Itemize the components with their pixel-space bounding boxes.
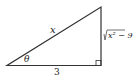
opposite-side-label: x² − 9 xyxy=(108,32,133,40)
angle-theta-label: θ xyxy=(24,55,29,64)
right-angle-marker xyxy=(96,61,101,66)
triangle-outline xyxy=(7,7,101,66)
hypotenuse-label: x xyxy=(50,25,56,35)
adjacent-side-label: 3 xyxy=(54,68,60,77)
triangle-figure xyxy=(0,0,138,80)
